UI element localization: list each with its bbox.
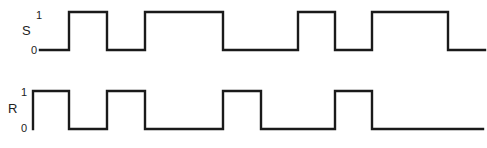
- signal-r: R 1 0: [8, 86, 483, 134]
- timing-diagram: S 1 0 R 1 0: [0, 0, 487, 148]
- signal-s-name: S: [22, 23, 31, 38]
- signal-s: S 1 0: [22, 9, 485, 56]
- signal-r-waveform: [33, 91, 483, 129]
- signal-r-low-label: 0: [21, 122, 27, 134]
- signal-s-waveform: [40, 12, 485, 50]
- signal-r-name: R: [8, 101, 17, 116]
- signal-s-low-label: 0: [31, 44, 37, 56]
- signal-s-high-label: 1: [36, 9, 42, 21]
- signal-r-high-label: 1: [21, 86, 27, 98]
